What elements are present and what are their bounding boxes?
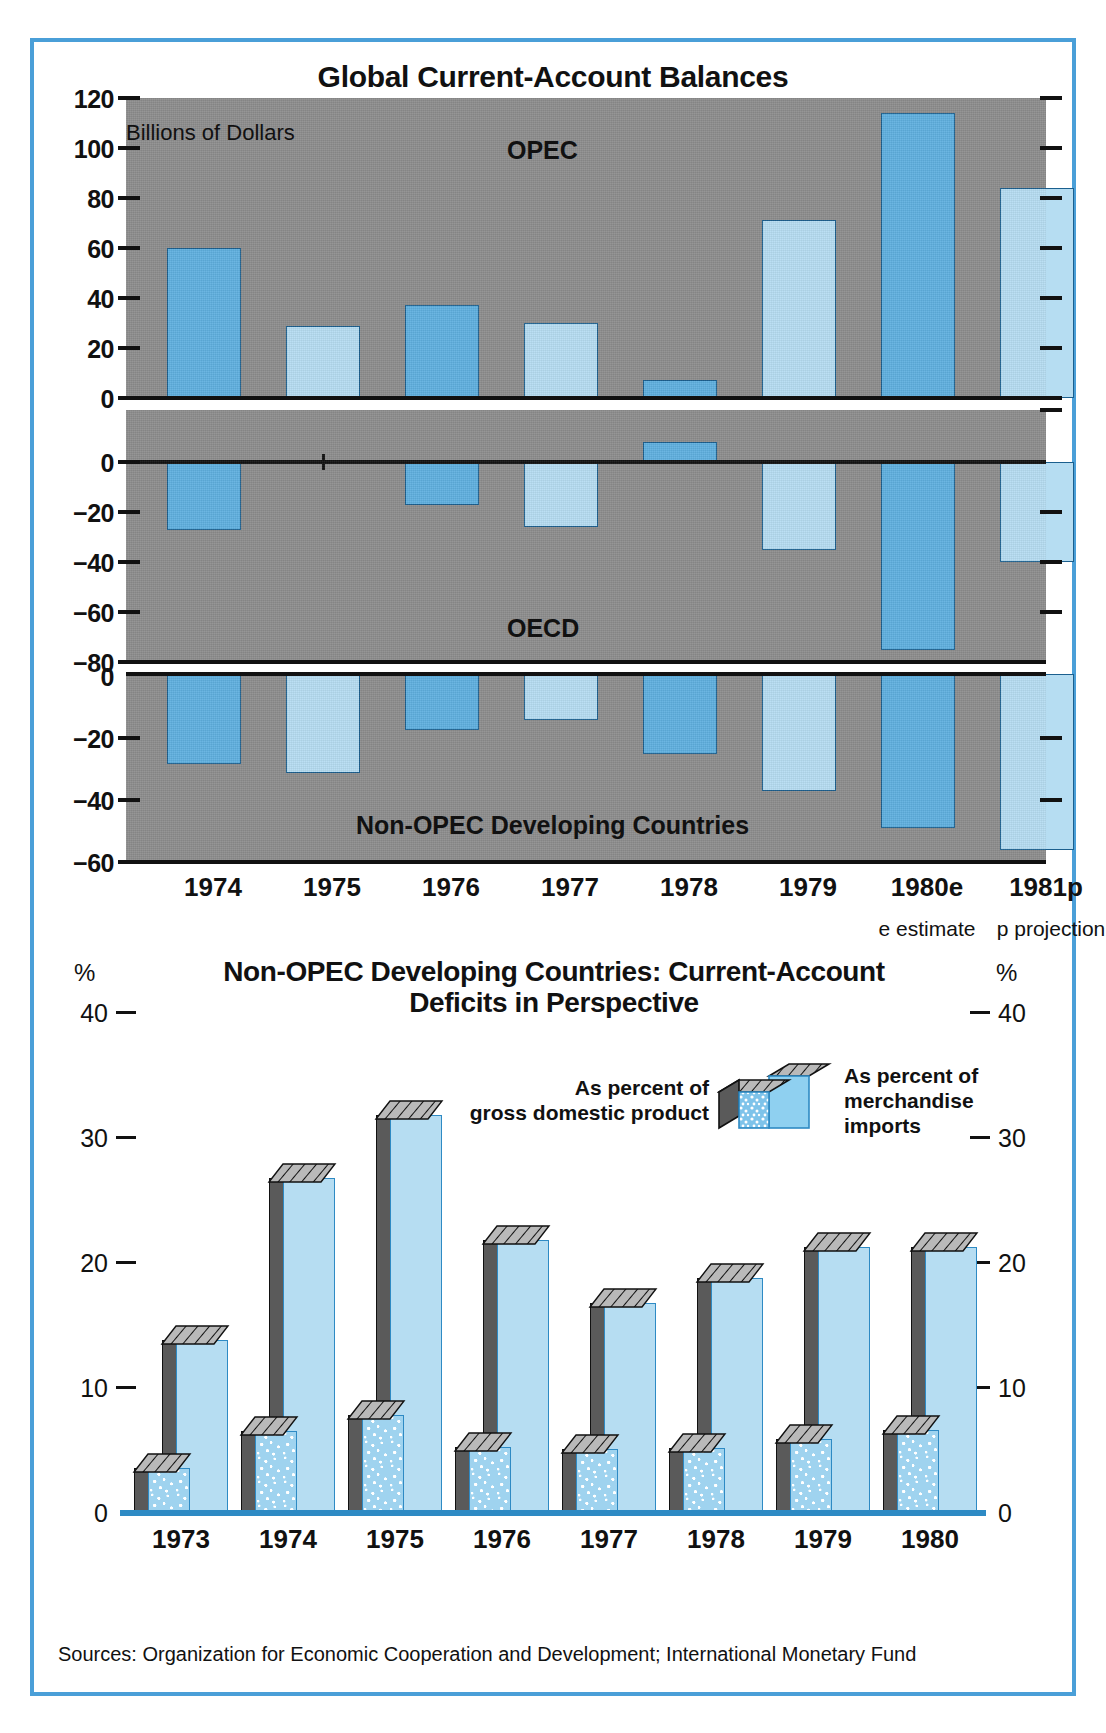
oecd-tick-m40: −40 xyxy=(48,549,114,578)
bar3d-top xyxy=(562,1435,618,1453)
opec-tick-100: 100 xyxy=(62,135,114,164)
bottom-xaxis-label-1973: 1973 xyxy=(126,1524,236,1555)
bar3d-top xyxy=(134,1454,190,1472)
bar3d-top xyxy=(269,1164,335,1182)
bar-opec-1977 xyxy=(524,323,598,398)
left-tickmark-10 xyxy=(116,1386,136,1389)
bar3d-gdp-1977 xyxy=(562,1435,618,1512)
legend-left-label: As percent of gross domestic product xyxy=(464,1076,709,1126)
opec-tickmark-80 xyxy=(118,196,140,200)
right-tick-10: 10 xyxy=(998,1374,1026,1403)
bar-opec-1981 xyxy=(1000,188,1074,398)
bar3d-top xyxy=(669,1434,725,1452)
bottom-xaxis-label-1978: 1978 xyxy=(661,1524,771,1555)
figure-page: Global Current-Account Balances OPEC 120… xyxy=(0,0,1106,1733)
bottom-xaxis-label-1980: 1980 xyxy=(875,1524,985,1555)
bar3d-gdp-1976 xyxy=(455,1433,511,1512)
oecd-tick-m20: −20 xyxy=(48,499,114,528)
bottom-xaxis-label-1979: 1979 xyxy=(768,1524,878,1555)
right-percent-symbol: % xyxy=(996,959,1017,987)
bar3d-top xyxy=(697,1264,763,1282)
bar-nonopec-1979 xyxy=(762,674,836,791)
bar3d-gdp-1975 xyxy=(348,1401,404,1512)
bar3d-top xyxy=(804,1233,870,1251)
bar-opec-1979 xyxy=(762,220,836,398)
opec-tickmark-60 xyxy=(118,246,140,250)
bar-oecd-1981 xyxy=(1000,462,1074,562)
nonopec-tick-m40: −40 xyxy=(48,787,114,816)
opec-tick-120: 120 xyxy=(62,85,114,114)
bar-opec-1975 xyxy=(286,326,360,398)
oecd-tickmark-m60 xyxy=(118,610,140,614)
left-percent-symbol: % xyxy=(74,959,95,987)
sources-note: Sources: Organization for Economic Coope… xyxy=(58,1643,916,1666)
opec-tickmark-40 xyxy=(118,296,140,300)
opec-tickmark-right-100 xyxy=(1040,146,1062,150)
bar3d-front xyxy=(362,1415,404,1512)
opec-tick-40: 40 xyxy=(62,285,114,314)
nonopec-tickmark-m40 xyxy=(118,798,140,802)
bar-opec-1976 xyxy=(405,305,479,398)
opec-tickmark-right-120 xyxy=(1040,96,1062,100)
bar3d-top xyxy=(162,1326,228,1344)
bar3d-front xyxy=(897,1430,939,1512)
left-tick-0: 0 xyxy=(62,1499,108,1528)
legend-swatch-icon xyxy=(717,1062,837,1142)
right-tickmark-40 xyxy=(970,1011,990,1014)
bar3d-gdp-1974 xyxy=(241,1417,297,1512)
bottom-chart-title-line1: Non-OPEC Developing Countries: Current-A… xyxy=(223,956,884,987)
opec-tickmark-right-60 xyxy=(1040,246,1062,250)
bar-oecd-1977 xyxy=(524,462,598,527)
legend: As percent of gross domestic product xyxy=(464,1054,934,1149)
bar-nonopec-1976 xyxy=(405,674,479,730)
nonopec-panel-label: Non-OPEC Developing Countries xyxy=(356,811,749,840)
legend-right-line1: As percent of xyxy=(844,1064,978,1087)
top-xaxis-label-1981p: 1981p xyxy=(966,872,1106,903)
opec-tickmark-right-40 xyxy=(1040,296,1062,300)
bar3d-front xyxy=(469,1447,511,1512)
bar-nonopec-1974 xyxy=(167,674,241,764)
opec-tick-0: 0 xyxy=(62,385,114,414)
bar3d-top xyxy=(455,1433,511,1451)
nonopec-panel: Non-OPEC Developing Countries xyxy=(126,674,1046,860)
bar3d-top xyxy=(241,1417,297,1435)
bar3d-top xyxy=(483,1226,549,1244)
oecd-tickmark-right-m60 xyxy=(1040,610,1062,614)
legend-left-line1: As percent of xyxy=(575,1076,709,1099)
legend-right-label: As percent of merchandise imports xyxy=(844,1064,1054,1138)
bar-nonopec-1975 xyxy=(286,674,360,773)
oecd-bottom-line xyxy=(126,660,1046,664)
oecd-tick-0: 0 xyxy=(62,449,114,478)
left-tickmark-40 xyxy=(116,1011,136,1014)
bar3d-top xyxy=(348,1401,404,1419)
bottom-chart-title: Non-OPEC Developing Countries: Current-A… xyxy=(174,956,934,1019)
legend-right-line2: merchandise xyxy=(844,1089,974,1112)
bar3d-top xyxy=(883,1416,939,1434)
nonopec-bottom-line xyxy=(126,860,1046,864)
opec-tick-60: 60 xyxy=(62,235,114,264)
units-label: Billions of Dollars xyxy=(126,120,295,146)
bar-nonopec-1978 xyxy=(643,674,717,754)
opec-tickmark-right-80 xyxy=(1040,196,1062,200)
oecd-tickmark-0 xyxy=(118,460,140,464)
left-tick-30: 30 xyxy=(62,1124,108,1153)
left-tick-10: 10 xyxy=(62,1374,108,1403)
oecd-panel-label: OECD xyxy=(507,614,579,643)
bar-oecd-1979 xyxy=(762,462,836,550)
bar3d-front xyxy=(683,1448,725,1512)
nonopec-tick-m20: −20 xyxy=(48,725,114,754)
oecd-tickmark-right-m20 xyxy=(1040,510,1062,514)
opec-tickmark-100 xyxy=(118,146,140,150)
oecd-tickmark-right-m40 xyxy=(1040,560,1062,564)
bar-nonopec-1977 xyxy=(524,674,598,720)
bar-opec-1974 xyxy=(167,248,241,398)
left-tickmark-20 xyxy=(116,1261,136,1264)
bar-nonopec-1980 xyxy=(881,674,955,828)
legend-right-line3: imports xyxy=(844,1114,921,1137)
bottom-chart-title-line2: Deficits in Perspective xyxy=(409,987,699,1018)
bar-nonopec-1981 xyxy=(1000,674,1074,850)
bar3d-front xyxy=(576,1449,618,1512)
nonopec-tickmark-right-m40 xyxy=(1040,798,1062,802)
bar-oecd-1974 xyxy=(167,462,241,530)
opec-tickmark-right-20 xyxy=(1040,346,1062,350)
